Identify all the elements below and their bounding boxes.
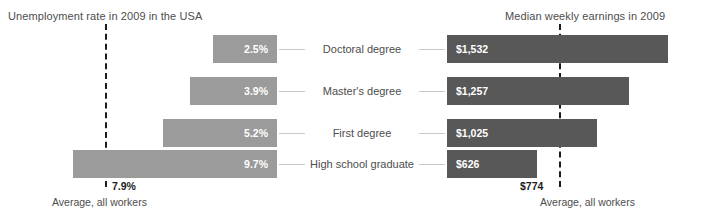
bar-left-doctoral-degree: 2.5%	[213, 35, 277, 63]
leader-line-right-row-1	[419, 49, 445, 50]
bar-left-masters-degree: 3.9%	[190, 77, 277, 105]
category-label-first-degree: First degree	[283, 127, 441, 139]
bar-left-high-school-graduate: 9.7%	[73, 150, 277, 178]
bar-left-value: 9.7%	[244, 158, 277, 170]
bar-right-value: $1,257	[447, 85, 488, 97]
average-value-left: 7.9%	[112, 180, 136, 192]
chart-title-right: Median weekly earnings in 2009	[505, 10, 665, 22]
bar-left-first-degree: 5.2%	[163, 119, 277, 147]
average-caption-right: Average, all workers	[540, 196, 635, 208]
bar-left-value: 5.2%	[244, 127, 277, 139]
category-label-masters-degree: Master's degree	[283, 85, 441, 97]
leader-line-right-row-2	[419, 91, 445, 92]
chart-title-left: Unemployment rate in 2009 in the USA	[8, 10, 202, 22]
bar-right-high-school-graduate: $626	[447, 150, 537, 178]
average-caption-left: Average, all workers	[52, 196, 147, 208]
bar-right-value: $1,025	[447, 127, 488, 139]
diverging-bar-chart: Unemployment rate in 2009 in the USA Med…	[0, 0, 701, 216]
category-label-high-school-graduate: High school graduate	[283, 158, 441, 170]
bar-right-masters-degree: $1,257	[447, 77, 629, 105]
leader-line-right-row-4	[419, 164, 445, 165]
bar-right-value: $1,532	[447, 43, 488, 55]
bar-left-value: 3.9%	[244, 85, 277, 97]
bar-right-doctoral-degree: $1,532	[447, 35, 668, 63]
leader-line-right-row-3	[419, 133, 445, 134]
category-label-doctoral-degree: Doctoral degree	[283, 43, 441, 55]
bar-right-first-degree: $1,025	[447, 119, 597, 147]
average-value-right: $774	[520, 180, 543, 192]
bar-right-value: $626	[447, 158, 479, 170]
bar-left-value: 2.5%	[244, 43, 277, 55]
